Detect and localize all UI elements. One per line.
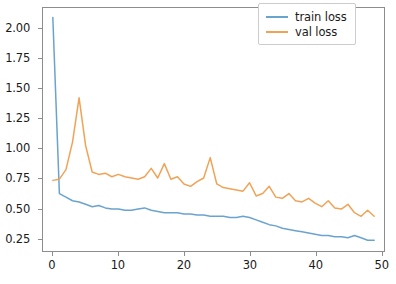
legend: train loss val loss [258,3,356,45]
legend-item-val-loss: val loss [266,24,347,39]
y-axis-tick-label: 1.25 [5,111,30,125]
y-axis-tick [38,239,42,240]
y-axis-tick [38,88,42,89]
y-axis-tick [38,118,42,119]
x-axis-tick [250,252,251,256]
x-axis-tick-label: 0 [48,258,55,272]
y-axis-tick-label: 1.50 [5,81,30,95]
legend-label-val-loss: val loss [295,25,337,39]
y-axis-tick [38,58,42,59]
y-axis-tick [38,148,42,149]
legend-item-train-loss: train loss [266,9,347,24]
y-axis-tick-label: 0.25 [5,232,30,246]
loss-curve-figure: 0.250.500.751.001.251.501.752.00 0102030… [0,0,396,284]
y-axis-tick-label: 0.50 [5,202,30,216]
x-axis-tick [118,252,119,256]
x-axis-tick-label: 40 [309,258,323,272]
legend-swatch-train-loss [266,16,288,18]
x-axis-tick [382,252,383,256]
y-axis-tick-label: 1.75 [5,51,30,65]
y-axis-tick-label: 1.00 [5,141,30,155]
x-axis-tick [316,252,317,256]
y-axis-tick [38,28,42,29]
x-axis-tick-label: 30 [243,258,257,272]
x-axis-tick [52,252,53,256]
x-axis-tick [184,252,185,256]
x-axis-tick-label: 50 [375,258,389,272]
y-axis-tick [38,178,42,179]
legend-label-train-loss: train loss [295,10,347,24]
x-axis-tick-label: 10 [111,258,125,272]
y-axis-tick-label: 0.75 [5,171,30,185]
series-line-train-loss [53,18,374,241]
series-line-val-loss [53,98,374,217]
y-axis-tick-label: 2.00 [5,21,30,35]
x-axis-tick-label: 20 [177,258,191,272]
legend-swatch-val-loss [266,31,288,33]
y-axis-tick [38,209,42,210]
